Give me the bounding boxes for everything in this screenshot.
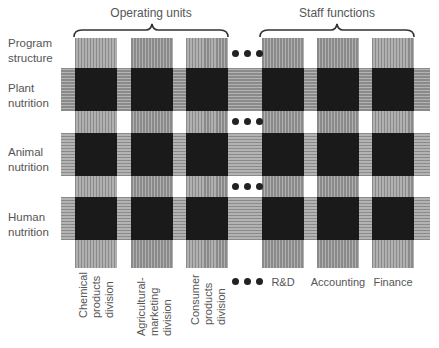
row-label-animal-nutrition: Animal nutrition bbox=[8, 145, 49, 175]
ellipsis-icon bbox=[232, 50, 263, 57]
column-label-consumer: Consumer products division bbox=[189, 274, 228, 325]
row-label-human-nutrition: Human nutrition bbox=[8, 210, 49, 240]
staff-functions-brace-icon bbox=[0, 0, 439, 40]
column-label-rd: R&D bbox=[262, 276, 304, 288]
ellipsis-icon bbox=[232, 278, 263, 285]
row-label-plant-nutrition: Plant nutrition bbox=[8, 81, 49, 111]
ellipsis-icon bbox=[232, 183, 263, 190]
program-structure-label: Program structure bbox=[8, 36, 53, 66]
column-label-finance: Finance bbox=[368, 276, 418, 288]
column-label-accounting: Accounting bbox=[308, 276, 368, 288]
column-label-chemical: Chemical products division bbox=[77, 272, 116, 318]
ellipsis-icon bbox=[232, 118, 263, 125]
column-label-agricultural: Agricultural- marketing division bbox=[135, 277, 174, 336]
